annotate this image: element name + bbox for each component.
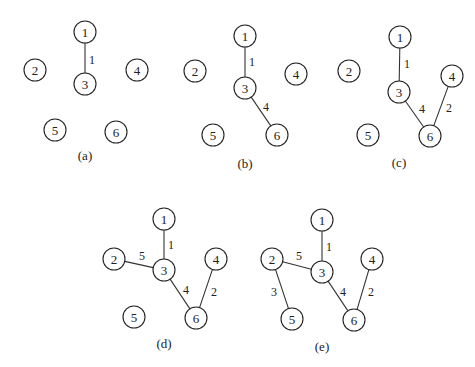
- node-label: 5: [52, 123, 59, 138]
- panel-b: 14123456(b): [184, 25, 307, 171]
- node-1: 1: [153, 208, 175, 230]
- node-label: 6: [427, 129, 434, 144]
- edge-3-6: 4: [328, 281, 348, 311]
- edge-1-3: 1: [322, 231, 332, 261]
- node-4: 4: [205, 248, 227, 270]
- panel-e: 15342123456(e): [261, 209, 383, 354]
- edge-4-6: 2: [357, 270, 374, 310]
- node-5: 5: [44, 119, 66, 141]
- node-label: 6: [351, 313, 358, 328]
- node-1: 1: [74, 21, 96, 43]
- node-1: 1: [234, 25, 256, 47]
- node-4: 4: [441, 65, 463, 87]
- node-label: 5: [289, 312, 296, 327]
- node-label: 6: [113, 125, 120, 140]
- panel-c: 142123456(c): [338, 26, 463, 170]
- panel-caption: (c): [392, 155, 406, 170]
- node-label: 4: [369, 252, 376, 267]
- node-2: 2: [103, 248, 125, 270]
- node-label: 3: [242, 81, 249, 96]
- node-label: 1: [319, 213, 326, 228]
- edge-weight-label: 1: [326, 240, 332, 254]
- node-5: 5: [123, 306, 145, 328]
- panel-caption: (b): [237, 156, 252, 171]
- node-label: 1: [242, 29, 249, 44]
- node-5: 5: [202, 124, 224, 146]
- edge-2-3: 5: [283, 249, 312, 269]
- node-3: 3: [311, 261, 333, 283]
- edge-weight-label: 3: [271, 285, 277, 299]
- node-4: 4: [285, 63, 307, 85]
- node-1: 1: [311, 209, 333, 231]
- node-label: 1: [397, 30, 404, 45]
- panel-caption: (a): [78, 148, 92, 163]
- node-2: 2: [261, 248, 283, 270]
- node-3: 3: [388, 81, 410, 103]
- node-3: 3: [74, 73, 96, 95]
- node-label: 6: [274, 128, 281, 143]
- node-label: 4: [449, 69, 456, 84]
- edge-weight-label: 2: [211, 285, 217, 299]
- node-label: 5: [210, 128, 217, 143]
- panel-a: 1123456(a): [24, 21, 148, 163]
- node-5: 5: [281, 308, 303, 330]
- node-6: 6: [185, 307, 207, 329]
- edge-weight-label: 4: [340, 285, 346, 299]
- edge-weight-label: 5: [296, 249, 302, 263]
- graph-diagram: 1123456(a)14123456(b)142123456(c)1542123…: [0, 0, 475, 367]
- edge-1-3: 1: [245, 47, 255, 77]
- node-label: 3: [396, 85, 403, 100]
- node-2: 2: [184, 60, 206, 82]
- node-label: 6: [193, 311, 200, 326]
- edge-4-6: 2: [200, 269, 217, 307]
- panel-caption: (e): [315, 339, 329, 354]
- node-label: 2: [32, 63, 39, 78]
- edge-3-6: 4: [405, 101, 425, 127]
- node-label: 3: [319, 265, 326, 280]
- node-label: 5: [365, 128, 372, 143]
- node-6: 6: [343, 309, 365, 331]
- node-5: 5: [357, 124, 379, 146]
- edge-3-6: 4: [170, 279, 190, 309]
- edge-1-3: 1: [164, 230, 174, 259]
- node-label: 2: [192, 64, 199, 79]
- node-3: 3: [234, 77, 256, 99]
- node-label: 4: [134, 63, 141, 78]
- edge-weight-label: 5: [139, 249, 145, 263]
- node-3: 3: [153, 259, 175, 281]
- node-2: 2: [338, 60, 360, 82]
- edge-weight-label: 1: [168, 238, 174, 252]
- node-4: 4: [126, 59, 148, 81]
- edge-weight-label: 4: [263, 100, 269, 114]
- edge-1-3: 1: [399, 48, 410, 81]
- node-label: 4: [213, 252, 220, 267]
- edge-weight-label: 2: [446, 101, 452, 115]
- node-label: 2: [269, 252, 276, 267]
- node-1: 1: [389, 26, 411, 48]
- panel-d: 1542123456(d): [103, 208, 227, 351]
- node-2: 2: [24, 59, 46, 81]
- edge-3-6: 4: [251, 97, 271, 126]
- edge-weight-label: 1: [404, 57, 410, 71]
- node-label: 5: [131, 310, 138, 325]
- node-label: 1: [161, 212, 168, 227]
- edge-weight-label: 1: [89, 53, 95, 67]
- node-label: 3: [82, 77, 89, 92]
- node-6: 6: [419, 125, 441, 147]
- edge-weight-label: 1: [249, 55, 255, 69]
- node-label: 4: [293, 67, 300, 82]
- edge-weight-label: 4: [183, 283, 189, 297]
- node-4: 4: [361, 248, 383, 270]
- node-label: 3: [161, 263, 168, 278]
- edge-weight-label: 4: [419, 102, 425, 116]
- node-6: 6: [105, 121, 127, 143]
- panel-caption: (d): [156, 336, 171, 351]
- edge-2-3: 5: [125, 249, 154, 268]
- node-label: 1: [82, 25, 89, 40]
- edge-weight-label: 2: [368, 285, 374, 299]
- node-6: 6: [266, 124, 288, 146]
- edge-4-6: 2: [434, 86, 452, 125]
- edge-2-5: 3: [271, 269, 289, 308]
- node-label: 2: [111, 252, 118, 267]
- node-label: 2: [346, 64, 353, 79]
